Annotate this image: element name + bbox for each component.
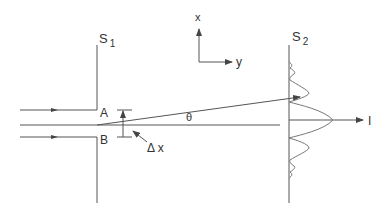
- incoming-beams: [20, 108, 280, 139]
- screen-s1-label: S1: [99, 31, 116, 49]
- screen-s2-label: S2: [292, 29, 309, 47]
- pointer-arrow: [133, 131, 147, 142]
- arrow-icon: [51, 135, 58, 139]
- screen-s2: S2 I: [289, 29, 371, 203]
- delta-x-label: Δ x: [147, 141, 164, 155]
- screen-s1: S1 A B: [97, 31, 116, 203]
- axis-x-label: x: [195, 11, 201, 23]
- edge-a-label: A: [100, 106, 108, 120]
- axis-y-label: y: [236, 55, 242, 69]
- edge-b-label: B: [100, 133, 108, 147]
- coordinate-axes: x y: [195, 11, 242, 69]
- angle-theta-label: θ: [186, 111, 192, 123]
- arrow-icon: [51, 108, 58, 112]
- diffraction-diagram: x y S1 A B θ Δ x S2 I: [0, 0, 390, 210]
- diffracted-ray: [97, 97, 300, 125]
- intensity-label: I: [368, 114, 371, 128]
